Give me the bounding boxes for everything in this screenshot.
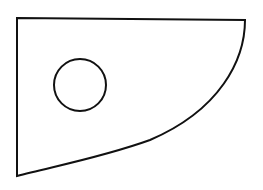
- diagram-figure: [0, 0, 263, 190]
- inner-circle: [54, 59, 106, 111]
- outer-shape: [17, 18, 245, 176]
- diagram-canvas: [0, 0, 263, 190]
